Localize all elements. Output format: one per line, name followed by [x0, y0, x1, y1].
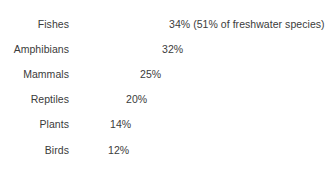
bar-track [73, 68, 135, 80]
value-label: 25% [140, 66, 161, 82]
bar-row: Birds 12% [0, 142, 326, 158]
bar-track [73, 93, 121, 105]
bar-row: Fishes 34% (51% of freshwater species) [0, 16, 326, 32]
bar-track [73, 43, 157, 55]
bar-row: Mammals 25% [0, 66, 326, 82]
bar-chart: Fishes 34% (51% of freshwater species) A… [0, 0, 326, 174]
bar-row: Reptiles 20% [0, 91, 326, 107]
value-label: 20% [126, 91, 147, 107]
value-label: 14% [110, 116, 131, 132]
bar-row: Amphibians 32% [0, 41, 326, 57]
bar-track [73, 18, 164, 30]
category-label: Birds [0, 142, 69, 158]
category-label: Plants [0, 116, 69, 132]
category-label: Mammals [0, 66, 69, 82]
bar-track [73, 118, 105, 130]
value-label: 34% (51% of freshwater species) [169, 16, 325, 32]
bar-row: Plants 14% [0, 116, 326, 132]
category-label: Reptiles [0, 91, 69, 107]
value-label: 12% [108, 142, 129, 158]
category-label: Fishes [0, 16, 69, 32]
value-label: 32% [162, 41, 183, 57]
category-label: Amphibians [0, 41, 69, 57]
bar-track [73, 144, 103, 156]
